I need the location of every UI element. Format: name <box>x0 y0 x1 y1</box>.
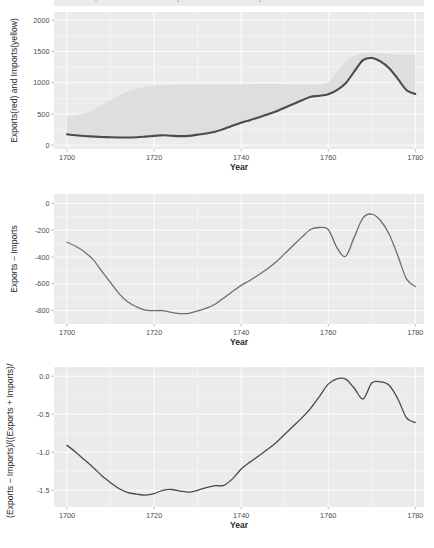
y-tick-label-4: 2000 <box>33 16 49 25</box>
y-tick-label-1: -200 <box>35 226 50 235</box>
x-axis-title: Year <box>230 337 249 347</box>
x-tick-label-3: 1760 <box>320 511 336 520</box>
y-tick-label-2: -1.0 <box>37 448 50 457</box>
top-partial-panel-sliver <box>0 0 434 7</box>
x-tick-label-4: 1780 <box>407 511 423 520</box>
x-tick-label-0: 1700 <box>59 153 75 162</box>
x-tick-label-2: 1740 <box>233 511 249 520</box>
x-tick-label-2: 1740 <box>233 328 249 337</box>
y-tick-label-3: -1.5 <box>37 486 50 495</box>
x-tick-label-2: 1740 <box>233 153 249 162</box>
chart-panel-trade-balance: 0-200-400-600-80017001720174017601780Yea… <box>0 190 434 358</box>
y-tick-label-4: -800 <box>35 306 50 315</box>
x-tick-label-0: 1700 <box>59 511 75 520</box>
top-sliver-svg <box>0 0 434 7</box>
panel-trade-balance-svg: 0-200-400-600-80017001720174017601780Yea… <box>0 190 434 358</box>
chart-panel-normalized-balance: 0.0-0.5-1.0-1.517001720174017601780Year(… <box>0 363 434 541</box>
panel-normalized-balance-svg: 0.0-0.5-1.0-1.517001720174017601780Year(… <box>0 363 434 541</box>
panel-exports-imports-levels-svg: 050010001500200017001720174017601780Year… <box>0 8 434 183</box>
x-tick-label-3: 1760 <box>320 153 336 162</box>
x-tick-label-1: 1720 <box>146 328 162 337</box>
y-tick-label-1: -0.5 <box>37 410 50 419</box>
x-axis-title: Year <box>230 520 249 530</box>
sliver-panel-bg <box>54 0 424 6</box>
x-axis-title: Year <box>230 162 249 172</box>
y-tick-label-2: -400 <box>35 253 50 262</box>
y-tick-label-1: 500 <box>37 110 49 119</box>
y-tick-label-0: 0 <box>45 141 49 150</box>
x-tick-label-0: 1700 <box>59 328 75 337</box>
x-tick-label-3: 1760 <box>320 328 336 337</box>
y-axis-title: Exports − Imports <box>9 225 19 293</box>
y-axis-title: (Exports − Imports)/((Exports + Imports)… <box>5 363 15 518</box>
y-tick-label-3: -600 <box>35 279 50 288</box>
x-tick-label-1: 1720 <box>146 153 162 162</box>
y-tick-label-0: 0 <box>45 199 49 208</box>
y-tick-label-0: 0.0 <box>39 372 49 381</box>
x-tick-label-1: 1720 <box>146 511 162 520</box>
y-tick-label-2: 1000 <box>33 78 49 87</box>
y-tick-label-3: 1500 <box>33 47 49 56</box>
figure-root: 050010001500200017001720174017601780Year… <box>0 0 434 548</box>
x-tick-label-4: 1780 <box>407 153 423 162</box>
y-axis-title: Exports(red) and Imports(yellow) <box>9 18 19 143</box>
x-tick-label-4: 1780 <box>407 328 423 337</box>
chart-panel-exports-imports-levels: 050010001500200017001720174017601780Year… <box>0 8 434 183</box>
